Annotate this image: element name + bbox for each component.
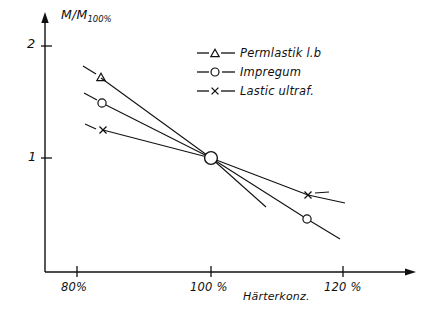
y-axis-label-subscript: 100% xyxy=(87,14,111,24)
x-tick-label-80: 80% xyxy=(61,282,87,294)
legend-label-permlastik: Permlastik l.b xyxy=(240,46,321,60)
series-line-impregum xyxy=(84,93,340,239)
y-axis xyxy=(41,12,48,272)
triangle-marker xyxy=(211,49,219,56)
legend-entry-lastic: Lastic ultraf. xyxy=(196,82,356,101)
y-axis-label-main: M/M xyxy=(61,7,87,22)
x-tick-label-120: 120 % xyxy=(324,282,362,294)
legend-entry-permlastik: Permlastik l.b xyxy=(196,44,356,63)
circle-marker xyxy=(211,68,219,76)
x-tick-label-100: 100 % xyxy=(190,282,228,294)
y-tick-label-1: 1 xyxy=(28,150,36,163)
legend-key-circle xyxy=(196,63,238,81)
convergence-point-marker xyxy=(205,152,218,165)
legend-label-impregum: Impregum xyxy=(240,65,301,79)
y-axis-label: M/M100% xyxy=(61,9,112,23)
legend-key-cross xyxy=(196,82,238,100)
x-axis-label: Härterkonz. xyxy=(243,291,310,302)
chart-figure: M/M100% 2 1 80% 100 % 120 % Härterkonz. … xyxy=(0,0,436,316)
y-axis-ticks xyxy=(41,46,52,158)
y-tick-label-2: 2 xyxy=(27,37,35,50)
circle-marker xyxy=(303,215,311,223)
chart-legend: Permlastik l.b Impregum Lastic ultraf. xyxy=(196,44,356,101)
triangle-marker xyxy=(97,73,105,80)
cross-marker xyxy=(100,127,107,134)
cross-marker xyxy=(212,88,219,95)
circle-marker xyxy=(98,99,106,107)
x-axis xyxy=(45,268,416,275)
legend-label-lastic: Lastic ultraf. xyxy=(240,84,314,98)
legend-entry-impregum: Impregum xyxy=(196,63,356,82)
legend-key-triangle xyxy=(196,44,238,62)
